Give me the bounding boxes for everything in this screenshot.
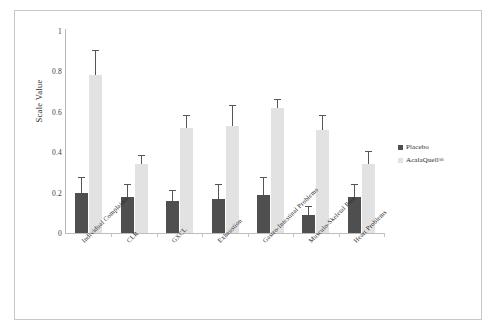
error-bar [186,116,187,128]
bar-acalaquell [89,75,102,233]
error-bar [141,156,142,164]
error-bar [322,116,323,130]
error-bar [81,178,82,192]
error-bar-cap [78,177,85,178]
error-bar-cap [365,151,372,152]
bar-acalaquell [135,164,148,233]
error-bar-cap [183,115,190,116]
y-tick-label: 0.6 [52,107,62,116]
x-tick-mark [157,233,158,237]
error-bar [232,106,233,126]
x-tick-mark [248,233,249,237]
error-bar [368,152,369,164]
legend-swatch-icon [398,158,403,163]
legend-label: Placebo [406,143,429,151]
bar-placebo [302,215,315,233]
error-bar-cap [124,184,131,185]
error-bar [127,185,128,197]
error-bar-cap [229,105,236,106]
error-bar-cap [274,99,281,100]
y-tick-label: 0.4 [52,148,62,157]
bar-group [257,31,284,233]
chart-figure: Scale Value 00.20.40.60.81 Individual Co… [0,0,497,334]
x-tick-mark [339,233,340,237]
y-tick-label: 0 [58,229,62,238]
y-tick-label: 1 [58,27,62,36]
legend-label: AcalaQuell® [406,156,444,164]
legend-swatch-icon [398,145,403,150]
error-bar [95,51,96,75]
x-tick-mark [293,233,294,237]
error-bar-cap [169,190,176,191]
error-bar-cap [215,184,222,185]
legend-item: Placebo [398,143,476,151]
error-bar-cap [260,177,267,178]
error-bar [354,185,355,197]
x-tick-mark [202,233,203,237]
legend-item: AcalaQuell® [398,156,476,164]
error-bar-cap [305,206,312,207]
bar-acalaquell [180,128,193,233]
y-tick-label: 0.2 [52,188,62,197]
bar-placebo [75,193,88,233]
bar-group [75,31,102,233]
error-bar [263,178,264,194]
y-axis-tick-labels: 00.20.40.60.81 [40,0,62,334]
error-bar-cap [351,184,358,185]
error-bar [172,191,173,201]
plot-area [66,31,384,233]
bar-placebo [257,195,270,233]
error-bar-cap [138,155,145,156]
bar-placebo [166,201,179,233]
error-bar [308,207,309,215]
error-bar-cap [92,50,99,51]
bar-group [166,31,193,233]
bar-placebo [212,199,225,233]
x-tick-mark [111,233,112,237]
error-bar [277,100,278,108]
bar-group [212,31,239,233]
error-bar [218,185,219,199]
legend: PlaceboAcalaQuell® [398,143,476,169]
bar-acalaquell [271,108,284,233]
y-tick-label: 0.8 [52,67,62,76]
x-tick-mark [384,233,385,237]
error-bar-cap [319,115,326,116]
